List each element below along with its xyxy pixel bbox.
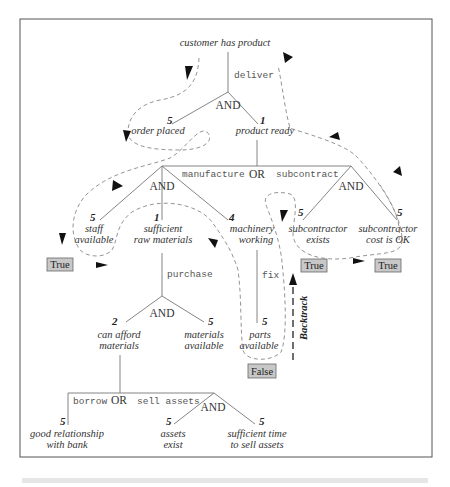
score-parts-available: 5 — [262, 315, 268, 327]
arrow-icon — [208, 238, 218, 248]
node-good-relationship-line2: with bank — [46, 439, 87, 450]
node-good-relationship: good relationship — [30, 428, 104, 439]
backtrack-label: Backtrack — [298, 295, 309, 341]
node-sufficient-time-line2: to sell assets — [230, 439, 283, 450]
arrow-icon — [353, 258, 365, 264]
node-parts-available: parts — [248, 329, 271, 340]
operator-and-manufacture: AND — [150, 180, 175, 192]
score-machinery-working: 4 — [228, 211, 235, 223]
node-product-ready: product ready — [235, 125, 295, 136]
operator-or-product-ready: OR — [249, 168, 265, 180]
node-staff-available-line2: available — [74, 234, 113, 245]
arrow-icon — [283, 52, 293, 63]
node-staff-available: staff — [85, 223, 105, 234]
node-sufficient-raw-materials-line2: raw materials — [134, 234, 193, 245]
score-sufficient-time: 5 — [259, 415, 265, 427]
operator-or-afford: OR — [111, 394, 127, 406]
node-customer-has-product: customer has product — [180, 37, 272, 48]
arrow-icon — [59, 233, 66, 245]
action-fix: fix — [262, 270, 279, 281]
node-order-placed: order placed — [131, 125, 185, 136]
operator-and-purchase: AND — [150, 307, 175, 319]
node-materials-available: materials — [184, 329, 224, 340]
figure-caption — [22, 478, 428, 483]
action-purchase: purchase — [167, 269, 213, 280]
backtrack-indicator: Backtrack — [289, 273, 309, 360]
node-assets-exist-line2: exist — [163, 439, 183, 450]
operator-and-subcontract: AND — [339, 180, 364, 192]
arrow-icon — [112, 180, 123, 191]
svg-text:True: True — [50, 259, 70, 270]
node-can-afford-materials-line2: materials — [99, 340, 139, 351]
node-subcontractor-exists: subcontractor — [289, 223, 349, 234]
operator-and-root: AND — [216, 99, 241, 111]
arrow-icon — [280, 210, 288, 222]
and-or-tree-diagram: customer has product deliver AND 5 order… — [0, 0, 450, 487]
arrow-icon — [329, 132, 340, 140]
node-subcontractor-exists-line2: exists — [306, 234, 329, 245]
node-subcontractor-cost-ok-line2: cost is OK — [366, 234, 411, 245]
svg-text:True: True — [378, 260, 398, 271]
score-subcontractor-cost-ok: 5 — [397, 206, 403, 218]
score-materials-available: 5 — [208, 315, 214, 327]
action-subcontract: subcontract — [276, 169, 339, 180]
node-assets-exist: assets — [160, 428, 185, 439]
node-parts-available-line2: available — [239, 340, 278, 351]
svg-text:True: True — [304, 260, 324, 271]
operator-and-sell-assets: AND — [201, 401, 226, 413]
svg-text:False: False — [251, 366, 274, 377]
node-machinery-working: machinery — [230, 223, 275, 234]
result-badge-parts-false: False — [248, 364, 276, 378]
action-manufacture: manufacture — [182, 169, 245, 180]
node-materials-available-line2: available — [184, 340, 223, 351]
arrow-icon — [393, 166, 402, 176]
score-can-afford-materials: 2 — [111, 315, 118, 327]
node-sufficient-raw-materials: sufficient — [144, 223, 184, 234]
action-borrow: borrow — [73, 396, 108, 407]
node-sufficient-time: sufficient time — [227, 428, 287, 439]
score-assets-exist: 5 — [166, 415, 172, 427]
result-badge-subcontractor-exists-true: True — [301, 259, 327, 272]
score-sufficient-raw-materials: 1 — [154, 211, 160, 223]
arrow-up-icon — [289, 273, 297, 285]
action-sell-assets: sell assets — [137, 396, 200, 407]
node-machinery-working-line2: working — [239, 234, 273, 245]
arrow-icon — [123, 130, 131, 142]
action-deliver: deliver — [234, 70, 274, 81]
arrow-icon — [96, 262, 108, 268]
arrow-icon — [185, 66, 193, 80]
score-staff-available: 5 — [90, 211, 96, 223]
score-good-relationship: 5 — [60, 415, 66, 427]
result-badge-staff-true: True — [47, 258, 73, 271]
node-subcontractor-cost-ok: subcontractor — [359, 223, 419, 234]
node-can-afford-materials: can afford — [97, 329, 141, 340]
score-subcontractor-exists: 5 — [298, 206, 304, 218]
result-badge-subcontractor-cost-true: True — [375, 259, 401, 272]
